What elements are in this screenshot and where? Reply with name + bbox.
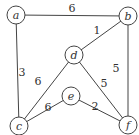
node-label: b [124,10,131,23]
edge-weight-label: 1 [94,24,101,37]
edge-b-d [74,16,128,55]
node-c: c [10,117,28,135]
node-a: a [7,6,25,24]
edge-e-f [71,96,128,125]
edge-d-f [74,55,128,125]
node-e: e [62,87,80,105]
edge-weight-label: 6 [35,75,42,88]
edge-weight-label: 3 [19,66,26,79]
node-f: f [119,116,137,134]
weighted-graph: 63156562 abdcef [0,0,139,135]
edge-weight-label: 6 [45,101,52,114]
edge-weight-label: 6 [69,2,76,15]
node-label: a [13,9,20,22]
node-d: d [65,46,83,64]
edge-a-b [16,15,128,16]
edge-weight-label: 5 [101,77,108,90]
node-label: e [68,90,75,103]
node-label: d [70,49,77,62]
node-label: c [16,120,22,133]
node-b: b [119,7,137,25]
edge-weight-label: 5 [113,62,120,75]
edge-weight-label: 2 [92,100,99,113]
